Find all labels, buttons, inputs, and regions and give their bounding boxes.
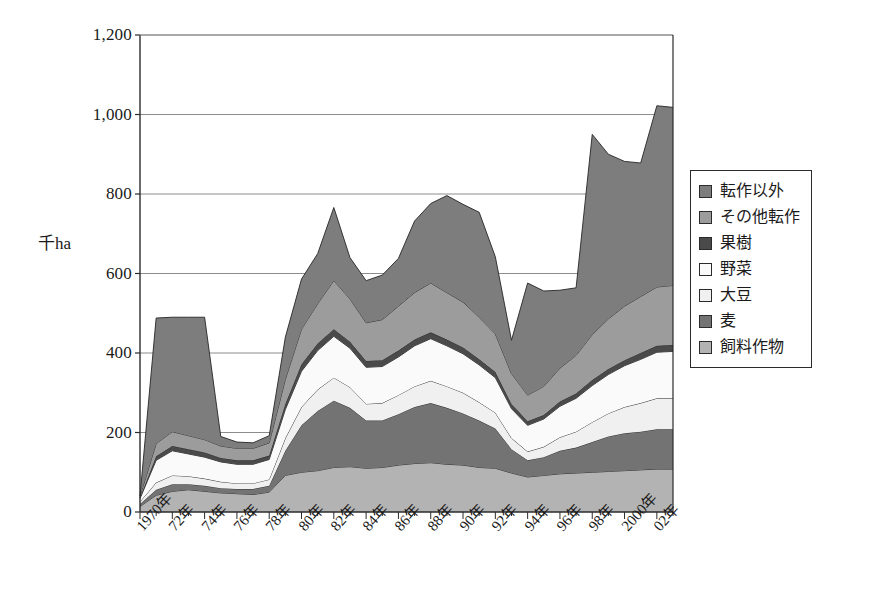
legend-swatch-icon bbox=[699, 211, 712, 224]
legend-item-label: その他転作 bbox=[720, 209, 800, 225]
legend-swatch-icon bbox=[699, 341, 712, 354]
legend-item-label: 飼料作物 bbox=[720, 339, 784, 355]
x-tick-label: 88年 bbox=[425, 502, 456, 534]
x-tick-label: 78年 bbox=[263, 502, 294, 534]
legend-item[interactable]: 大豆 bbox=[699, 282, 805, 308]
x-tick-label: 74年 bbox=[199, 502, 230, 534]
x-tick-label: 92年 bbox=[489, 502, 520, 534]
x-tick-label: 2000年 bbox=[619, 491, 660, 534]
legend-item[interactable]: 転作以外 bbox=[699, 178, 805, 204]
legend-swatch-icon bbox=[699, 289, 712, 302]
legend-item[interactable]: 野菜 bbox=[699, 256, 805, 282]
legend-swatch-icon bbox=[699, 263, 712, 276]
legend-item-label: 転作以外 bbox=[720, 183, 784, 199]
legend-item-label: 果樹 bbox=[720, 235, 752, 251]
legend-swatch-icon bbox=[699, 185, 712, 198]
legend-item[interactable]: 麦 bbox=[699, 308, 805, 334]
chart-legend: 転作以外その他転作果樹野菜大豆麦飼料作物 bbox=[690, 170, 812, 368]
x-tick-label: 96年 bbox=[554, 502, 585, 534]
legend-item[interactable]: 飼料作物 bbox=[699, 334, 805, 360]
legend-item-label: 野菜 bbox=[720, 261, 752, 277]
x-tick-label: 82年 bbox=[328, 502, 359, 534]
x-tick-label: 94年 bbox=[522, 502, 553, 534]
legend-item[interactable]: 果樹 bbox=[699, 230, 805, 256]
legend-item[interactable]: その他転作 bbox=[699, 204, 805, 230]
x-tick-label: 98年 bbox=[586, 502, 617, 534]
x-tick-label: 80年 bbox=[296, 502, 327, 534]
x-tick-label: 02年 bbox=[651, 502, 682, 534]
x-tick-label: 72年 bbox=[166, 502, 197, 534]
legend-item-label: 大豆 bbox=[720, 287, 752, 303]
x-tick-label: 84年 bbox=[360, 502, 391, 534]
x-tick-label: 90年 bbox=[457, 502, 488, 534]
x-tick-label: 76年 bbox=[231, 502, 262, 534]
legend-item-label: 麦 bbox=[720, 313, 736, 329]
legend-swatch-icon bbox=[699, 237, 712, 250]
legend-swatch-icon bbox=[699, 315, 712, 328]
x-tick-label: 86年 bbox=[392, 502, 423, 534]
stacked-area-chart-figure: 02004006008001,0001,200 千ha 1970年72年74年7… bbox=[0, 0, 873, 600]
